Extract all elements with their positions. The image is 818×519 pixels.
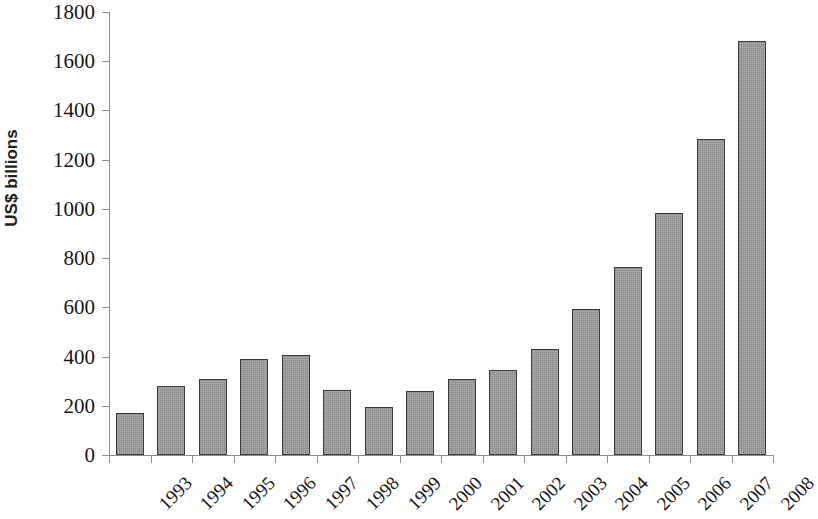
x-axis-tick-label: 1996: [279, 473, 319, 513]
y-axis-tick-label: 400: [64, 346, 96, 367]
y-axis-tick: 400: [102, 357, 109, 358]
bar: [697, 139, 725, 455]
x-axis-tick-label: 2004: [611, 473, 651, 513]
y-axis-line: [109, 12, 110, 456]
x-axis-tick-label: 2008: [777, 473, 817, 513]
y-axis-tick-label: 200: [64, 395, 96, 416]
bar: [116, 413, 144, 455]
bar: [614, 267, 642, 455]
x-axis-tick: [441, 455, 442, 463]
x-axis-tick-label: 2005: [653, 473, 693, 513]
y-axis-tick-label: 600: [64, 297, 96, 318]
x-axis-tick: [607, 455, 608, 463]
x-axis-tick-label: 2006: [694, 473, 734, 513]
x-axis-tick: [358, 455, 359, 463]
y-axis-tick: 1400: [102, 110, 109, 111]
x-axis-tick-label: 2007: [736, 473, 776, 513]
x-axis-tick: [649, 455, 650, 463]
x-axis-tick-label: 1999: [404, 473, 444, 513]
bar: [365, 407, 393, 455]
x-axis-tick-label: 1998: [362, 473, 402, 513]
x-axis-tick: [317, 455, 318, 463]
x-axis-tick-label: 2003: [570, 473, 610, 513]
x-axis-tick: [483, 455, 484, 463]
x-axis-tick: [151, 455, 152, 463]
bar: [738, 41, 766, 455]
x-axis-tick: [109, 455, 110, 463]
y-axis-tick: 1800: [102, 12, 109, 13]
x-axis-tick: [275, 455, 276, 463]
bar: [489, 370, 517, 455]
bar: [282, 355, 310, 455]
x-axis-tick: [690, 455, 691, 463]
x-axis-tick: [400, 455, 401, 463]
bar: [323, 390, 351, 455]
y-axis-tick-label: 1400: [53, 100, 95, 121]
x-axis-tick-label: 1993: [155, 473, 195, 513]
y-axis-tick: 200: [102, 406, 109, 407]
bar: [240, 359, 268, 455]
bar: [199, 379, 227, 455]
bar: [531, 349, 559, 455]
y-axis-tick-label: 0: [85, 445, 96, 466]
plot-area: 020040060080010001200140016001800 199319…: [109, 12, 773, 455]
y-axis-tick: 600: [102, 307, 109, 308]
x-axis-tick: [773, 455, 774, 463]
x-axis-tick-label: 1995: [238, 473, 278, 513]
x-axis-tick-label: 1994: [196, 473, 236, 513]
x-axis-tick-label: 2000: [445, 473, 485, 513]
x-axis-tick: [566, 455, 567, 463]
bar: [572, 309, 600, 455]
y-axis-tick-label: 800: [64, 248, 96, 269]
x-axis-tick-label: 1997: [321, 473, 361, 513]
bar: [448, 379, 476, 455]
bar: [655, 213, 683, 455]
x-axis-tick-label: 2001: [487, 473, 527, 513]
y-axis-tick: 0: [102, 455, 109, 456]
x-axis-tick-label: 2002: [528, 473, 568, 513]
y-axis-tick-label: 1200: [53, 149, 95, 170]
y-axis-tick: 1000: [102, 209, 109, 210]
x-axis-tick: [732, 455, 733, 463]
bar: [157, 386, 185, 455]
y-axis-tick: 800: [102, 258, 109, 259]
x-axis-tick: [524, 455, 525, 463]
bar: [406, 391, 434, 455]
x-axis-tick: [192, 455, 193, 463]
y-axis-tick-label: 1800: [53, 2, 95, 23]
y-axis-tick-label: 1600: [53, 51, 95, 72]
y-axis-title: US$ billions: [2, 108, 22, 248]
y-axis-tick-label: 1000: [53, 198, 95, 219]
y-axis-tick: 1600: [102, 61, 109, 62]
x-axis-tick: [234, 455, 235, 463]
y-axis-tick: 1200: [102, 160, 109, 161]
